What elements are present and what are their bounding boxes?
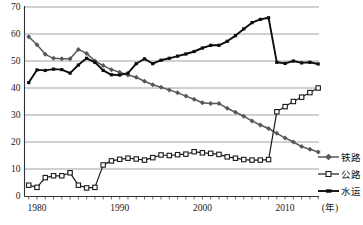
- data-point-filled-square: [77, 63, 80, 66]
- data-point-open-square: [43, 175, 47, 179]
- data-point-open-square: [60, 174, 64, 178]
- legend-item-highway: 公路: [318, 165, 361, 182]
- data-point-filled-square: [317, 62, 320, 65]
- data-point-diamond: [51, 56, 56, 61]
- highway-line-square-icon: [318, 169, 339, 179]
- y-axis-tick-label: 70: [11, 2, 21, 12]
- legend-item-waterway: 水运: [318, 182, 361, 199]
- series-waterway: [27, 16, 320, 84]
- data-point-open-square: [200, 151, 204, 155]
- data-point-filled-square: [300, 61, 303, 64]
- data-point-diamond: [109, 67, 114, 72]
- data-point-diamond: [208, 101, 213, 106]
- data-point-diamond: [134, 75, 139, 80]
- y-axis-tick-label: 10: [11, 164, 21, 174]
- series-highway: [27, 86, 321, 190]
- data-point-filled-square: [176, 55, 179, 58]
- data-point-open-square: [250, 158, 254, 162]
- data-point-open-square: [159, 153, 163, 157]
- legend-label-waterway: 水运: [341, 184, 361, 198]
- data-point-filled-square: [267, 16, 270, 19]
- data-point-filled-square: [135, 62, 138, 65]
- data-point-open-square: [126, 156, 130, 160]
- series-railway: [26, 34, 320, 154]
- data-point-filled-square: [52, 68, 55, 71]
- data-point-filled-square: [209, 44, 212, 47]
- data-point-open-square: [27, 183, 31, 187]
- y-axis-labels: 010203040506070: [11, 2, 21, 201]
- railway-line-diamond-icon: [318, 152, 339, 162]
- data-point-filled-square: [217, 44, 220, 47]
- data-point-open-square: [217, 152, 221, 156]
- data-point-diamond: [159, 85, 164, 90]
- data-point-open-square: [266, 157, 270, 161]
- y-axis-tick-label: 40: [11, 83, 21, 93]
- data-point-filled-square: [308, 61, 311, 64]
- data-point-open-square: [291, 99, 295, 103]
- data-point-filled-square: [27, 81, 30, 84]
- chart-container: 0102030405060701980199020002010(年) 铁路 公路…: [0, 0, 363, 225]
- data-point-open-square: [308, 90, 312, 94]
- data-point-filled-square: [284, 62, 287, 65]
- data-point-open-square: [76, 183, 80, 187]
- data-point-filled-square: [60, 68, 63, 71]
- x-axis-tick-label: 2000: [193, 203, 212, 213]
- data-point-filled-square: [126, 72, 129, 75]
- data-point-filled-square: [102, 69, 105, 72]
- data-point-filled-square: [118, 73, 121, 76]
- data-point-open-square: [233, 156, 237, 160]
- data-point-filled-square: [93, 61, 96, 64]
- data-point-open-square: [109, 159, 113, 163]
- data-point-open-square: [242, 157, 246, 161]
- data-point-open-square: [175, 152, 179, 156]
- data-point-open-square: [118, 157, 122, 161]
- data-point-open-square: [134, 157, 138, 161]
- data-point-open-square: [299, 95, 303, 99]
- x-axis-tick-label: 2010: [276, 203, 295, 213]
- legend: 铁路 公路 水运: [318, 148, 361, 199]
- legend-item-railway: 铁路: [318, 148, 361, 165]
- data-point-filled-square: [193, 50, 196, 53]
- x-axis-tick-label: 1980: [28, 203, 47, 213]
- data-point-open-square: [167, 153, 171, 157]
- data-point-filled-square: [110, 73, 113, 76]
- data-point-diamond: [192, 97, 197, 102]
- data-point-diamond: [258, 122, 263, 127]
- axes: [25, 6, 320, 197]
- data-point-diamond: [183, 94, 188, 99]
- data-point-filled-square: [201, 46, 204, 49]
- data-point-filled-square: [226, 40, 229, 43]
- legend-label-highway: 公路: [341, 167, 361, 181]
- data-point-open-square: [258, 158, 262, 162]
- data-point-filled-square: [242, 27, 245, 30]
- data-point-open-square: [208, 151, 212, 155]
- data-point-filled-square: [234, 34, 237, 37]
- legend-label-railway: 铁路: [341, 150, 361, 164]
- gridlines: [25, 7, 320, 169]
- data-point-filled-square: [151, 62, 154, 65]
- y-axis-tick-label: 0: [16, 191, 21, 201]
- data-point-diamond: [150, 82, 155, 87]
- data-point-open-square: [84, 186, 88, 190]
- data-point-open-square: [283, 104, 287, 108]
- y-axis-tick-label: 60: [11, 29, 21, 39]
- data-point-filled-square: [259, 18, 262, 21]
- data-point-open-square: [192, 150, 196, 154]
- data-point-filled-square: [85, 57, 88, 60]
- data-point-open-square: [101, 163, 105, 167]
- series-waterway-line: [29, 18, 319, 83]
- x-axis-labels: 1980199020002010(年): [28, 202, 339, 214]
- data-point-open-square: [184, 152, 188, 156]
- x-axis-unit-label: (年): [322, 202, 338, 214]
- data-point-filled-square: [292, 59, 295, 62]
- data-point-open-square: [142, 158, 146, 162]
- data-point-diamond: [175, 90, 180, 95]
- data-point-open-square: [51, 174, 55, 178]
- data-point-diamond: [233, 110, 238, 115]
- data-point-open-square: [316, 86, 320, 90]
- data-point-filled-square: [35, 68, 38, 71]
- y-axis-tick-label: 20: [11, 137, 21, 147]
- x-axis-tick-label: 1990: [110, 203, 129, 213]
- data-point-diamond: [59, 56, 64, 61]
- data-point-diamond: [142, 79, 147, 84]
